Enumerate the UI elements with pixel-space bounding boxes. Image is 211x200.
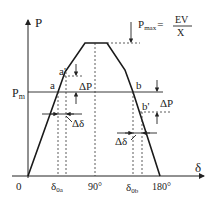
pm-label: Pm [12,86,26,101]
delta-delta-left-label: Δδ [72,117,84,129]
pmax-label: Pmax= [138,18,163,32]
point-b-label: b [136,79,142,91]
delta-delta-right-pointer [131,135,136,140]
delta-p-right-label: ΔP [160,97,173,109]
point-b-prime-label: b' [142,100,150,112]
tick-d0b: δ0b [126,181,139,195]
x-axis-label: δ [195,160,201,175]
delta-delta-right-label: Δδ [115,135,127,147]
tick-d180: 180° [152,181,171,192]
tick-d90: 90° [88,181,102,192]
pmax-denominator: X [177,27,185,38]
delta-p-left-label: ΔP [79,80,92,92]
tick-origin: 0 [16,180,22,192]
power-curve [28,43,160,176]
pmax-numerator: EV [175,14,189,25]
point-a-prime-label: a' [59,65,66,77]
power-angle-diagram: P δ Pm Pmax= EV X a a' b b' ΔP ΔP Δδ Δδ … [0,0,211,200]
y-axis-label: P [35,15,42,30]
tick-d0a: δ0a [51,180,64,194]
point-a-label: a [50,79,55,91]
